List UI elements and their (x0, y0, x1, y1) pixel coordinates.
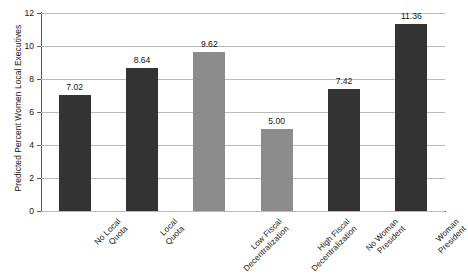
y-tick-label: 6 (6, 108, 34, 117)
gridline (41, 112, 445, 113)
y-tick-label: 8 (6, 75, 34, 84)
gridline (41, 211, 445, 212)
bar-value-label: 7.42 (320, 77, 368, 86)
bar-value-label: 9.62 (185, 40, 233, 49)
bar (59, 95, 91, 211)
bar (328, 89, 360, 211)
bar (261, 129, 293, 212)
category-label: Low FiscalDecentralization (235, 217, 291, 273)
y-tick-label: 10 (6, 42, 34, 51)
bar (395, 24, 427, 211)
gridline (41, 13, 445, 14)
gridline (41, 178, 445, 179)
y-tick-label: 2 (6, 174, 34, 183)
y-tick-label: 4 (6, 141, 34, 150)
plot-area (41, 13, 445, 211)
category-label: High FiscalDecentralization (302, 217, 358, 273)
y-tick-label: 12 (6, 9, 34, 18)
gridline (41, 79, 445, 80)
category-label: WomanPresident (430, 217, 468, 256)
bar-value-label: 5.00 (253, 117, 301, 126)
bar-value-label: 11.36 (387, 12, 435, 21)
category-label: No LocalQuota (92, 217, 129, 254)
bar (126, 68, 158, 211)
y-tick-label: 0 (6, 207, 34, 216)
gridline (41, 46, 445, 47)
bar-value-label: 7.02 (51, 83, 99, 92)
category-label: LocalQuota (157, 217, 187, 247)
category-label: No WomanPresident (364, 217, 407, 260)
gridline (41, 145, 445, 146)
bar-value-label: 8.64 (118, 56, 166, 65)
bar (193, 52, 225, 211)
